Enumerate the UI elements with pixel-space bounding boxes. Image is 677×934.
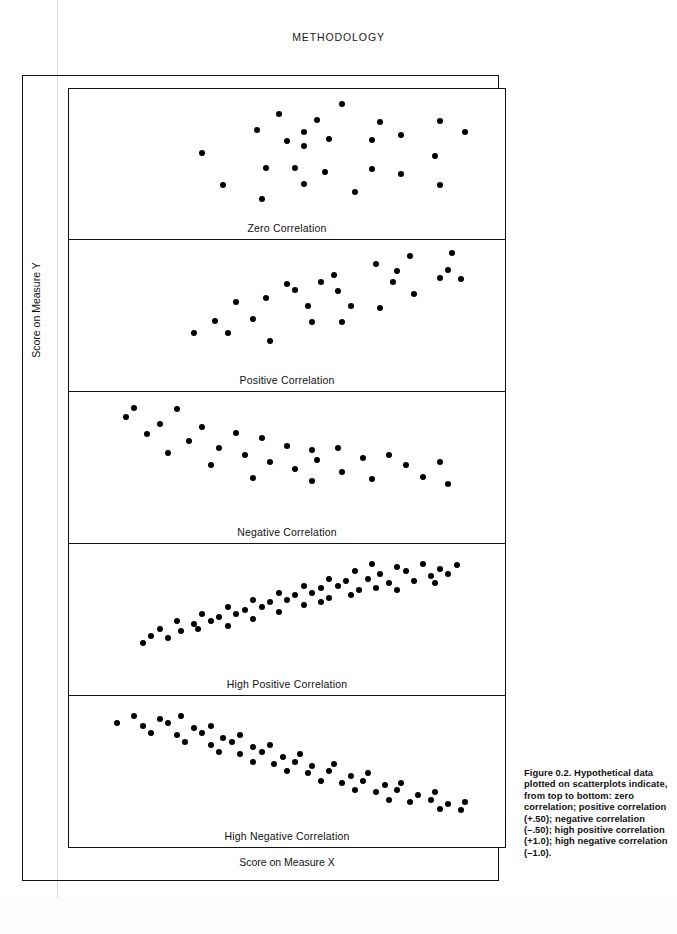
scatter-dot <box>199 424 205 430</box>
running-head: METHODOLOGY <box>0 31 677 43</box>
scatter-dot <box>445 267 451 273</box>
scatter-dot <box>428 797 434 803</box>
scatter-dot <box>284 597 290 603</box>
scatter-dot <box>373 261 379 267</box>
scatter-dot <box>208 742 214 748</box>
scatter-dot <box>301 129 307 135</box>
scatter-dot <box>458 276 464 282</box>
scatter-dot <box>292 165 298 171</box>
plot-area-zero-correlation <box>69 89 505 239</box>
scatter-dot <box>348 303 354 309</box>
scatter-dot <box>326 136 332 142</box>
scatter-dot <box>339 319 345 325</box>
scatter-dot <box>157 421 163 427</box>
scatter-dot <box>237 732 243 738</box>
scatter-dot <box>220 182 226 188</box>
scatter-dot <box>165 635 171 641</box>
scatter-dot <box>348 773 354 779</box>
plot-area-high-negative-correlation <box>69 696 505 847</box>
scatter-dot <box>415 792 421 798</box>
scatterplot-panel-stack: Zero Correlation Positive Correlation Ne… <box>68 88 506 848</box>
panel-label-high-positive-correlation: High Positive Correlation <box>69 678 505 690</box>
scatter-dot <box>284 138 290 144</box>
scatter-dot <box>420 474 426 480</box>
scatter-dot <box>445 801 451 807</box>
scatter-dot <box>267 742 273 748</box>
scatter-dot <box>233 430 239 436</box>
scatter-dot <box>267 599 273 605</box>
scatter-dot <box>309 590 315 596</box>
panel-positive-correlation: Positive Correlation <box>68 240 506 392</box>
scatter-dot <box>292 592 298 598</box>
x-axis-label: Score on Measure X <box>68 856 506 868</box>
scatter-dot <box>309 763 315 769</box>
scatter-dot <box>284 443 290 449</box>
scatter-dot <box>276 111 282 117</box>
scatter-dot <box>178 713 184 719</box>
scatter-dot <box>322 169 328 175</box>
scatter-dot <box>382 782 388 788</box>
scatter-dot <box>216 749 222 755</box>
panel-label-negative-correlation: Negative Correlation <box>69 526 505 538</box>
scatter-dot <box>369 476 375 482</box>
scatter-dot <box>254 127 260 133</box>
plot-area-negative-correlation <box>69 392 505 543</box>
scatter-dot <box>259 749 265 755</box>
scatter-dot <box>331 761 337 767</box>
scatter-dot <box>390 279 396 285</box>
scatter-dot <box>428 573 434 579</box>
scatter-dot <box>165 720 171 726</box>
scatter-dot <box>314 117 320 123</box>
scatter-dot <box>398 132 404 138</box>
scatter-dot <box>411 291 417 297</box>
scatter-dot <box>250 475 256 481</box>
scatter-dot <box>267 459 273 465</box>
scatter-dot <box>276 590 282 596</box>
scatter-dot <box>432 580 438 586</box>
y-axis-label: Score on Measure Y <box>30 230 42 390</box>
scatter-dot <box>276 609 282 615</box>
scatter-dot <box>263 295 269 301</box>
scatter-dot <box>144 431 150 437</box>
scatter-dot <box>250 759 256 765</box>
scatter-dot <box>225 604 231 610</box>
scatter-dot <box>229 739 235 745</box>
scatter-dot <box>318 778 324 784</box>
scatter-dot <box>437 182 443 188</box>
scatter-dot <box>309 478 315 484</box>
scatter-dot <box>454 562 460 568</box>
scatter-dot <box>343 578 349 584</box>
scatter-dot <box>437 118 443 124</box>
scatter-dot <box>292 466 298 472</box>
scatter-dot <box>191 725 197 731</box>
scatter-dot <box>123 414 129 420</box>
scatter-dot <box>233 299 239 305</box>
scatter-dot <box>394 564 400 570</box>
plot-area-high-positive-correlation <box>69 544 505 695</box>
panel-negative-correlation: Negative Correlation <box>68 392 506 544</box>
scatter-dot <box>186 438 192 444</box>
scatter-dot <box>365 576 371 582</box>
scatter-dot <box>267 338 273 344</box>
scatter-dot <box>309 319 315 325</box>
scatter-dot <box>352 568 358 574</box>
scatter-dot <box>403 568 409 574</box>
scatter-dot <box>250 744 256 750</box>
scatter-dot <box>437 459 443 465</box>
scatter-dot <box>318 599 324 605</box>
scatter-dot <box>174 406 180 412</box>
scatter-dot <box>280 754 286 760</box>
scatter-dot <box>420 561 426 567</box>
scatter-dot <box>373 585 379 591</box>
scatter-dot <box>314 457 320 463</box>
scatter-dot <box>131 405 137 411</box>
scatter-dot <box>365 770 371 776</box>
scatter-dot <box>301 143 307 149</box>
scatter-dot <box>284 281 290 287</box>
scatter-dot <box>352 189 358 195</box>
scatter-dot <box>394 787 400 793</box>
scatter-dot <box>140 640 146 646</box>
scatter-dot <box>437 275 443 281</box>
scatter-dot <box>394 587 400 593</box>
scatter-dot <box>377 119 383 125</box>
